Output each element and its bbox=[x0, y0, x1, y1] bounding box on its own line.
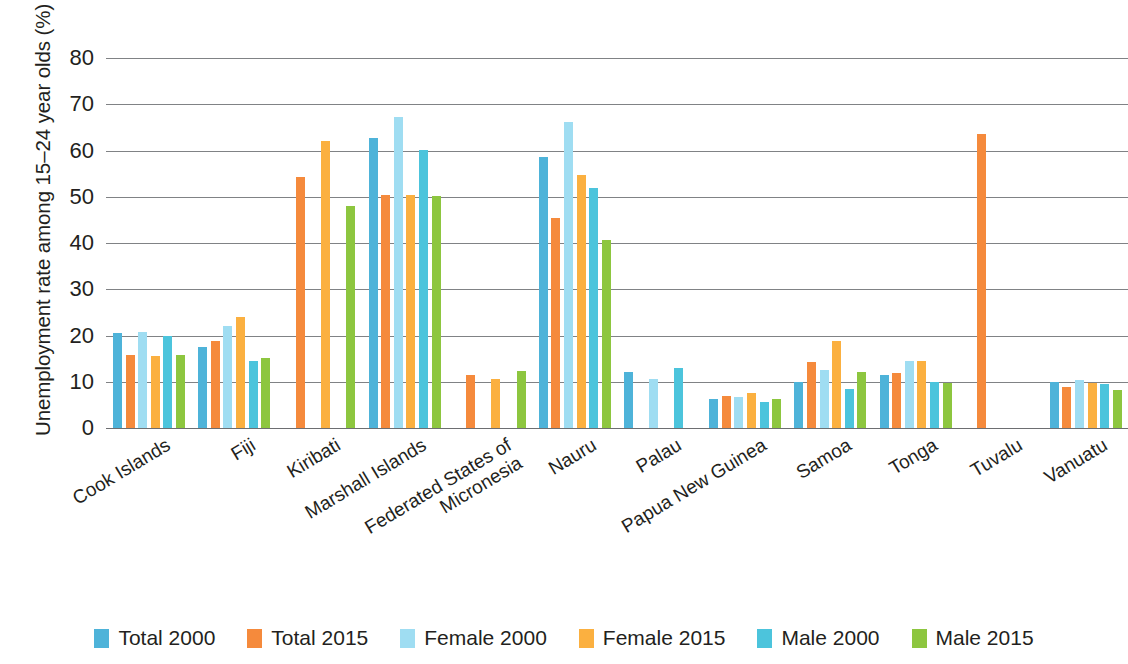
bar bbox=[577, 175, 586, 428]
bar bbox=[930, 382, 939, 428]
bar bbox=[381, 195, 390, 428]
bar bbox=[551, 218, 560, 428]
y-tick-label: 70 bbox=[34, 93, 94, 115]
x-axis-labels: Cook IslandsFijiKiribatiMarshall Islands… bbox=[106, 428, 1128, 598]
legend-label: Female 2000 bbox=[424, 626, 547, 650]
bar bbox=[1075, 380, 1084, 428]
bar bbox=[709, 399, 718, 428]
y-tick-label: 10 bbox=[34, 371, 94, 393]
legend-label: Male 2015 bbox=[936, 626, 1034, 650]
bar bbox=[807, 362, 816, 428]
bar bbox=[466, 375, 475, 428]
y-tick-label: 50 bbox=[34, 186, 94, 208]
legend-swatch-icon bbox=[247, 629, 262, 648]
bar-group bbox=[624, 58, 696, 428]
bar bbox=[832, 341, 841, 428]
bar bbox=[880, 375, 889, 428]
bar bbox=[369, 138, 378, 428]
bar bbox=[892, 373, 901, 428]
bar bbox=[649, 379, 658, 428]
bar bbox=[223, 326, 232, 428]
legend-label: Male 2000 bbox=[781, 626, 879, 650]
bar bbox=[747, 393, 756, 428]
bar bbox=[539, 157, 548, 428]
y-tick-label: 80 bbox=[34, 47, 94, 69]
bar bbox=[1050, 382, 1059, 428]
bar bbox=[198, 347, 207, 428]
bar bbox=[517, 371, 526, 428]
bar bbox=[943, 383, 952, 428]
bar-group bbox=[965, 58, 1037, 428]
bar bbox=[760, 402, 769, 428]
legend-label: Total 2015 bbox=[271, 626, 368, 650]
bar bbox=[722, 396, 731, 428]
bar-group bbox=[539, 58, 611, 428]
legend-item[interactable]: Male 2015 bbox=[912, 626, 1034, 650]
bar-group bbox=[198, 58, 270, 428]
bar bbox=[820, 370, 829, 428]
bar bbox=[602, 240, 611, 428]
bar-group bbox=[794, 58, 866, 428]
bar bbox=[211, 341, 220, 428]
y-tick-label: 40 bbox=[34, 232, 94, 254]
bar bbox=[406, 195, 415, 428]
legend-item[interactable]: Total 2015 bbox=[247, 626, 368, 650]
bar bbox=[857, 372, 866, 428]
legend-label: Total 2000 bbox=[118, 626, 215, 650]
chart-legend: Total 2000Total 2015Female 2000Female 20… bbox=[0, 626, 1128, 650]
y-tick-label: 60 bbox=[34, 140, 94, 162]
bar bbox=[624, 372, 633, 428]
legend-swatch-icon bbox=[400, 629, 415, 648]
bar bbox=[977, 134, 986, 428]
legend-swatch-icon bbox=[757, 629, 772, 648]
bar bbox=[772, 399, 781, 428]
bar bbox=[1088, 383, 1097, 428]
bar-group bbox=[369, 58, 441, 428]
bar-group bbox=[454, 58, 526, 428]
bar bbox=[734, 397, 743, 428]
bar bbox=[419, 150, 428, 428]
bar-group bbox=[1050, 58, 1122, 428]
bar-group bbox=[709, 58, 781, 428]
y-tick-label: 20 bbox=[34, 325, 94, 347]
bar bbox=[394, 117, 403, 428]
bar bbox=[917, 361, 926, 428]
bar bbox=[176, 355, 185, 428]
legend-label: Female 2015 bbox=[603, 626, 726, 650]
bar bbox=[126, 355, 135, 428]
bar bbox=[236, 317, 245, 428]
plot-area: 80706050403020100 bbox=[106, 58, 1128, 428]
bar bbox=[296, 177, 305, 428]
bar bbox=[1062, 387, 1071, 428]
bar bbox=[346, 206, 355, 428]
y-tick-label: 30 bbox=[34, 278, 94, 300]
legend-swatch-icon bbox=[94, 629, 109, 648]
bar bbox=[491, 379, 500, 428]
legend-item[interactable]: Female 2000 bbox=[400, 626, 547, 650]
bar bbox=[564, 122, 573, 428]
bar bbox=[905, 361, 914, 428]
legend-item[interactable]: Male 2000 bbox=[757, 626, 879, 650]
bar bbox=[589, 188, 598, 428]
bar bbox=[113, 333, 122, 428]
bar bbox=[432, 196, 441, 428]
bar bbox=[261, 358, 270, 428]
legend-item[interactable]: Total 2000 bbox=[94, 626, 215, 650]
bar-groups bbox=[106, 58, 1128, 428]
y-tick-label: 0 bbox=[34, 417, 94, 439]
legend-swatch-icon bbox=[912, 629, 927, 648]
bar bbox=[674, 368, 683, 428]
bar bbox=[163, 336, 172, 429]
bar bbox=[1100, 384, 1109, 428]
bar-group bbox=[880, 58, 952, 428]
bar bbox=[138, 332, 147, 428]
bar bbox=[1113, 390, 1122, 428]
legend-item[interactable]: Female 2015 bbox=[579, 626, 726, 650]
bar bbox=[321, 141, 330, 428]
bar bbox=[845, 389, 854, 428]
bar-group bbox=[113, 58, 185, 428]
bar bbox=[249, 361, 258, 428]
bar bbox=[151, 356, 160, 428]
bar-chart: Unemployment rate among 15–24 year olds … bbox=[0, 0, 1128, 664]
bar-group bbox=[283, 58, 355, 428]
